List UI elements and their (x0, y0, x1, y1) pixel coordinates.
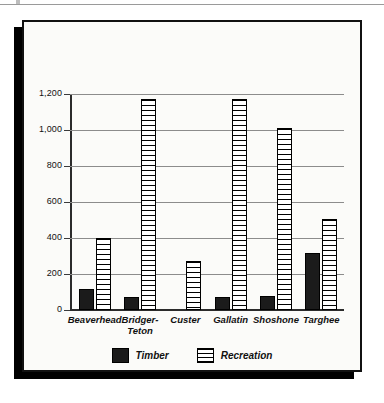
x-axis-line (70, 309, 344, 311)
bar-recreation-targhee (322, 219, 337, 310)
y-axis-label-1200: 1,200 (24, 88, 62, 98)
bar-timber-beaverhead (79, 289, 94, 310)
gridline-400 (70, 238, 344, 239)
solid-black-swatch-icon (112, 348, 129, 363)
y-tick-0 (64, 310, 70, 311)
bar-chart-plot-area: 02004006008001,0001,200 BeaverheadBridge… (24, 22, 360, 370)
gridline-1000 (70, 130, 344, 131)
bar-timber-shoshone (260, 296, 275, 310)
legend-label-recreation: Recreation (221, 350, 273, 361)
bar-timber-targhee (305, 253, 320, 310)
y-axis-label-0: 0 (24, 304, 62, 314)
y-axis-label-1000: 1,000 (24, 124, 62, 134)
y-tick-200 (64, 274, 70, 275)
y-axis-label-400: 400 (24, 232, 62, 242)
y-axis-label-600: 600 (24, 196, 62, 206)
y-tick-400 (64, 238, 70, 239)
y-axis-label-800: 800 (24, 160, 62, 170)
bar-recreation-gallatin (232, 99, 247, 311)
figure-frame: 02004006008001,0001,200 BeaverheadBridge… (22, 20, 362, 372)
y-axis-label-200: 200 (24, 268, 62, 278)
y-tick-1200 (64, 94, 70, 95)
legend-label-timber: Timber (136, 350, 169, 361)
y-tick-1000 (64, 130, 70, 131)
page-top-rule-mark (16, 0, 20, 4)
gridline-800 (70, 166, 344, 167)
gridline-1200 (70, 94, 344, 95)
legend-item-recreation: Recreation (197, 348, 273, 363)
bar-timber-bridger-teton (124, 297, 139, 310)
bar-recreation-beaverhead (96, 238, 111, 310)
bar-recreation-custer (186, 261, 201, 310)
hatched-swatch-icon (197, 348, 214, 363)
page-top-rule (0, 4, 384, 5)
chart-legend: Timber Recreation (24, 348, 360, 363)
y-tick-800 (64, 166, 70, 167)
gridline-600 (70, 202, 344, 203)
bar-recreation-bridger-teton (141, 99, 156, 311)
legend-item-timber: Timber (112, 348, 169, 363)
bar-timber-gallatin (215, 297, 230, 311)
gridline-200 (70, 274, 344, 275)
bar-recreation-shoshone (277, 128, 292, 310)
y-tick-600 (64, 202, 70, 203)
x-axis-category-label-targhee: Targhee (293, 314, 350, 325)
